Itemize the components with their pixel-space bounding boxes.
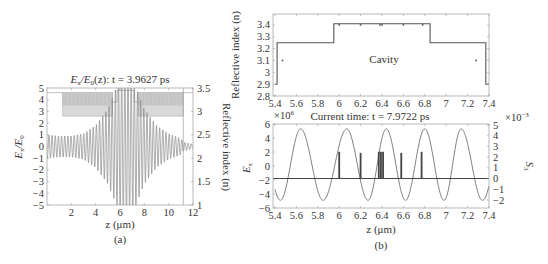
x-tick-label: 10 bbox=[163, 207, 174, 218]
panel-b-bottom-ylabel: Ex bbox=[240, 162, 254, 174]
x-tick-label: 6.2 bbox=[354, 210, 367, 221]
y-tick-label: −2 bbox=[259, 175, 270, 186]
x-tick-label: 7 bbox=[444, 98, 449, 109]
x-tick-label: 7.2 bbox=[461, 98, 474, 109]
cavity-annotation: Cavity bbox=[369, 53, 399, 65]
panel-b-bottom-plot bbox=[273, 129, 489, 200]
bragg-mirror-left bbox=[63, 93, 113, 116]
y-tick-label: 0 bbox=[265, 161, 270, 172]
y-tick-label: −4 bbox=[33, 188, 45, 199]
x-tick-label: 7.4 bbox=[482, 210, 496, 221]
y-tick-label: 0 bbox=[39, 141, 44, 152]
panel-b-xlabel: z (μm) bbox=[366, 223, 396, 236]
y-tick-label: 3.2 bbox=[257, 43, 270, 54]
marker-dot bbox=[338, 24, 340, 26]
panel-b-label: (b) bbox=[375, 239, 388, 252]
y-tick-label: 2 bbox=[265, 147, 270, 158]
marker-dot bbox=[282, 60, 284, 62]
y-right-tick-label: 1 bbox=[493, 162, 498, 173]
x-tick-label: 6.2 bbox=[354, 98, 367, 109]
x-tick-label: 6 bbox=[117, 207, 122, 218]
panel-b-bottom-ylabel-right: S3 bbox=[522, 162, 536, 172]
y-tick-label: 2 bbox=[39, 118, 44, 129]
panel-a-label: (a) bbox=[114, 233, 127, 246]
x-tick-label: 5.4 bbox=[268, 98, 282, 109]
y-tick-label: 3.1 bbox=[257, 55, 270, 66]
panel-a-ylabel-right: Reflective index (n) bbox=[220, 103, 233, 191]
s3-multiplier: ×10−3 bbox=[505, 111, 529, 123]
ex-multiplier: ×106 bbox=[274, 109, 294, 121]
y-tick-label: −2 bbox=[33, 164, 44, 175]
y-right-tick-label: 3 bbox=[197, 106, 202, 117]
x-tick-label: 7.4 bbox=[482, 98, 496, 109]
marker-dot bbox=[422, 24, 424, 26]
y-tick-label: 3.3 bbox=[257, 31, 270, 42]
x-tick-label: 4 bbox=[93, 207, 99, 218]
s3-bar bbox=[400, 153, 402, 179]
panel-a-clip bbox=[47, 71, 193, 221]
s3-bar bbox=[380, 152, 382, 179]
x-tick-label: 2 bbox=[69, 207, 74, 218]
figure: 24681012−5−4−3−2−101234511.522.533.5 Ex/… bbox=[0, 0, 548, 264]
y-tick-label: −1 bbox=[33, 153, 44, 164]
y-tick-label: 5 bbox=[39, 83, 44, 94]
x-tick-label: 5.8 bbox=[311, 98, 324, 109]
y-right-tick-label: 0 bbox=[493, 173, 498, 184]
y-right-tick-label: 1 bbox=[197, 200, 202, 211]
y-tick-label: 6 bbox=[265, 119, 270, 130]
x-tick-label: 5.6 bbox=[290, 210, 303, 221]
panel-b-bottom-title: Current time: t = 7.9722 ps bbox=[310, 110, 429, 122]
y-right-tick-label: −1 bbox=[493, 184, 504, 195]
y-right-tick-label: 3.5 bbox=[197, 83, 210, 94]
panel-b-top-ylabel: Reflective index (n) bbox=[229, 11, 242, 99]
panel-b-bottom: −6−4−202465.45.65.866.26.46.66.877.27.4−… bbox=[240, 109, 536, 252]
x-tick-label: 7.2 bbox=[461, 210, 474, 221]
x-tick-label: 6.4 bbox=[375, 98, 389, 109]
y-right-tick-label: 2.5 bbox=[197, 129, 210, 140]
x-tick-label: 5.8 bbox=[311, 210, 324, 221]
s3-bar bbox=[378, 152, 380, 179]
y-tick-label: 2.9 bbox=[257, 79, 270, 90]
marker-dot bbox=[475, 60, 477, 62]
y-right-tick-label: 2 bbox=[493, 152, 498, 163]
panel-a-ylabel: Ex/E0 bbox=[12, 135, 26, 160]
s3-bar bbox=[360, 153, 362, 179]
x-tick-label: 6.8 bbox=[418, 98, 431, 109]
y-tick-label: 1 bbox=[39, 129, 44, 140]
s3-bar bbox=[382, 152, 384, 179]
x-tick-label: 6.4 bbox=[375, 210, 389, 221]
x-tick-label: 6 bbox=[337, 98, 342, 109]
marker-dot bbox=[403, 24, 405, 26]
y-tick-label: −3 bbox=[33, 176, 44, 187]
marker-dot bbox=[360, 24, 362, 26]
y-tick-label: −5 bbox=[33, 200, 44, 211]
y-tick-label: −4 bbox=[259, 189, 271, 200]
ex-field-wave bbox=[275, 129, 489, 200]
marker-dot bbox=[379, 24, 381, 26]
y-tick-label: 2.8 bbox=[257, 91, 270, 102]
panel-a-xlabel: z (μm) bbox=[105, 218, 135, 231]
x-tick-label: 8 bbox=[142, 207, 147, 218]
panel-b-top: 5.45.65.866.26.46.66.877.27.42.82.933.13… bbox=[229, 11, 496, 109]
y-right-tick-label: 1.5 bbox=[197, 176, 210, 187]
y-right-tick-label: −2 bbox=[493, 195, 504, 206]
panel-a: 24681012−5−4−3−2−101234511.522.533.5 Ex/… bbox=[12, 71, 233, 246]
y-tick-label: 3 bbox=[265, 67, 270, 78]
marker-dot bbox=[381, 24, 383, 26]
s3-bar bbox=[338, 152, 340, 179]
x-tick-label: 6.6 bbox=[397, 210, 410, 221]
y-tick-label: 4 bbox=[39, 94, 45, 105]
y-right-tick-label: 5 bbox=[493, 120, 498, 131]
s3-bar bbox=[421, 152, 423, 179]
panel-a-title: Ex/E0(z): t = 3.9627 ps bbox=[69, 73, 169, 87]
y-tick-label: 4 bbox=[265, 133, 271, 144]
y-tick-label: 3.4 bbox=[257, 19, 271, 30]
x-tick-label: 6.8 bbox=[418, 210, 431, 221]
x-tick-label: 5.6 bbox=[290, 98, 303, 109]
y-right-tick-label: 3 bbox=[493, 141, 498, 152]
y-right-tick-label: 2 bbox=[197, 153, 202, 164]
x-tick-label: 7 bbox=[444, 210, 449, 221]
y-tick-label: 3 bbox=[39, 106, 44, 117]
y-right-tick-label: 4 bbox=[493, 130, 499, 141]
x-tick-label: 6.6 bbox=[397, 98, 410, 109]
